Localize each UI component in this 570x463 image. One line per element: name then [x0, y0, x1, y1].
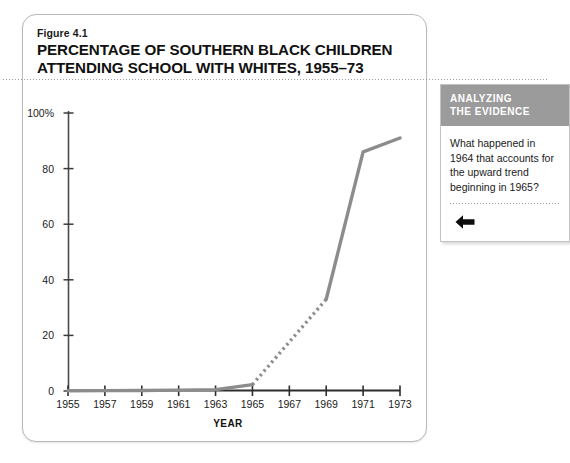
analyzing-the-evidence-panel: ANALYZING THE EVIDENCE What happened in …: [440, 84, 570, 242]
panel-question-text: What happened in 1964 that accounts for …: [450, 136, 560, 194]
panel-header-line-1: ANALYZING: [450, 92, 560, 105]
panel-divider: [450, 203, 560, 204]
title-divider: [3, 79, 549, 80]
panel-header: ANALYZING THE EVIDENCE: [441, 85, 569, 126]
left-arrow-icon[interactable]: [454, 213, 476, 231]
figure-number-label: Figure 4.1: [37, 27, 88, 39]
panel-body: What happened in 1964 that accounts for …: [441, 126, 569, 241]
figure-title-line-1: PERCENTAGE OF SOUTHERN BLACK CHILDREN: [37, 41, 417, 59]
panel-header-line-2: THE EVIDENCE: [450, 105, 560, 118]
figure-title: PERCENTAGE OF SOUTHERN BLACK CHILDREN AT…: [37, 41, 417, 77]
figure-title-line-2: ATTENDING SCHOOL WITH WHITES, 1955–73: [37, 59, 417, 77]
